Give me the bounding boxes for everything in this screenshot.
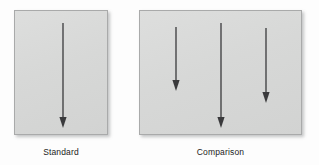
figure-container: се-тлес натли и нтаига н ехт ент атлии у…: [0, 0, 319, 165]
panel-comparison-inner: [140, 11, 301, 134]
caption-comparison: Comparison: [139, 147, 302, 157]
comparison-arrow-2-icon: [140, 11, 302, 135]
panel-comparison: [139, 10, 302, 135]
panel-standard: [14, 10, 108, 135]
comparison-arrow-3-icon: [140, 11, 302, 135]
standard-arrow-icon: [15, 11, 108, 135]
panel-standard-inner: [15, 11, 107, 134]
comparison-arrow-1-icon: [140, 11, 302, 135]
caption-standard: Standard: [14, 147, 108, 157]
